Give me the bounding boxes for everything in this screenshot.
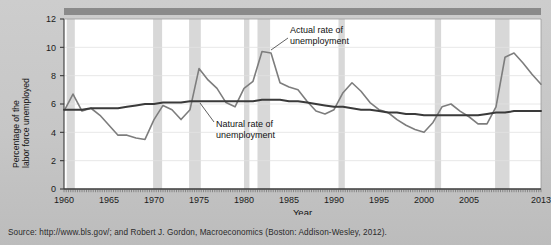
y-axis-title-line2: labor force unemployed [21,78,31,168]
x-axis-label-1980: 1980 [234,195,254,205]
top-rule [64,8,541,15]
x-axis-label-2013: 2013 [531,195,551,205]
unemployment-line-chart: 0246810121960196519701975198019851990199… [0,0,551,215]
y-axis-label-6: 6 [51,99,56,109]
y-axis-label-12: 12 [46,14,56,24]
x-axis-label-2005: 2005 [459,195,479,205]
natural-rate-annotation-line2: unemployment [216,130,276,140]
y-axis-label-10: 10 [46,43,56,53]
actual-rate-annotation-line2: unemployment [290,36,350,46]
y-axis-title-line1: Percentage of the [11,100,21,168]
figure-container: 0246810121960196519701975198019851990199… [0,0,551,245]
natural-rate-annotation-line1: Natural rate of [216,119,274,129]
y-axis-label-8: 8 [51,71,56,81]
y-axis-title: Percentage of the labor force unemployed [2,40,24,170]
x-axis-label-1960: 1960 [54,195,74,205]
x-axis-title: Year [293,207,312,215]
chart-area: 0246810121960196519701975198019851990199… [0,0,551,215]
x-axis-label-1970: 1970 [144,195,164,205]
y-axis-label-0: 0 [51,184,56,194]
x-axis-label-1990: 1990 [324,195,344,205]
x-axis-label-2000: 2000 [414,195,434,205]
x-axis-label-1985: 1985 [279,195,299,205]
source-note: Source: http://www.bls.gov/; and Robert … [8,228,387,237]
actual-rate-annotation-line1: Actual rate of [290,25,344,35]
x-axis-label-1975: 1975 [189,195,209,205]
x-axis-label-1965: 1965 [99,195,119,205]
y-axis-label-4: 4 [51,128,56,138]
x-axis-label-1995: 1995 [369,195,389,205]
y-axis-label-2: 2 [51,156,56,166]
